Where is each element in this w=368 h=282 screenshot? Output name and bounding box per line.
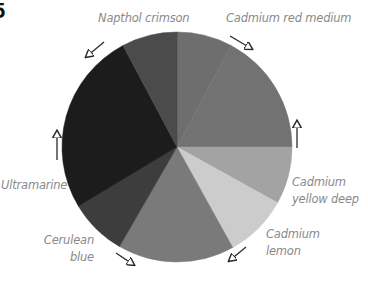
arrow-icon (116, 253, 134, 265)
arrow-icon (229, 247, 246, 261)
label-cadmium-yellow-deep: Cadmium yellow deep (292, 174, 359, 208)
label-ultramarine: Ultramarine (1, 177, 67, 194)
pie-slices (62, 32, 292, 262)
label-napthol-crimson: Napthol crimson (98, 10, 189, 27)
arrow-icon (86, 42, 104, 57)
label-cadmium-red-medium: Cadmium red medium (226, 10, 351, 27)
label-cerulean-blue: Cerulean blue (40, 232, 94, 266)
label-cadmium-lemon: Cadmium lemon (266, 226, 320, 260)
